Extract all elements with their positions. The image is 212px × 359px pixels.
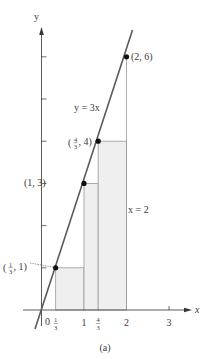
figure-caption: (a) xyxy=(99,342,110,354)
points: (13, 1)(1, 3)(43, 4)(2, 6) xyxy=(3,51,153,275)
data-point xyxy=(81,181,86,186)
x-tick-label-numerator: 1 xyxy=(54,316,57,323)
x-tick-label: 3 xyxy=(167,317,172,328)
point-label-tail: , 4) xyxy=(79,136,92,148)
x-axis-label: x xyxy=(194,304,200,315)
x-tick-label-numerator: 4 xyxy=(97,316,101,323)
point-label: (43, 4) xyxy=(68,136,92,150)
point-label-tail: , 1) xyxy=(14,261,27,273)
point-label-denominator: 3 xyxy=(9,268,12,275)
shaded-rectangle xyxy=(84,183,98,310)
shaded-rectangle xyxy=(98,141,126,310)
line-equation-label: y = 3x xyxy=(74,102,100,113)
origin-label: 0 xyxy=(45,316,50,327)
x-tick-label: 2 xyxy=(124,317,129,328)
riemann-sum-plot: y x 0 1314323 y = 3x x = 2 (13, 1)(1, 3)… xyxy=(0,0,212,359)
x-tick-label-denominator: 3 xyxy=(54,324,57,331)
shaded-rectangles xyxy=(56,57,127,310)
x-tick-label-denominator: 3 xyxy=(97,324,100,331)
data-point xyxy=(96,139,101,144)
shaded-rectangle xyxy=(56,268,84,310)
point-label: (2, 6) xyxy=(131,51,153,63)
vertical-line-label: x = 2 xyxy=(128,204,149,215)
data-point xyxy=(53,265,58,270)
point-label: (13, 1) xyxy=(3,261,27,275)
x-axis-arrow-icon xyxy=(184,308,192,312)
point-label-denominator: 3 xyxy=(74,143,77,150)
paren: ( xyxy=(3,262,7,274)
point-label: (1, 3) xyxy=(24,177,46,189)
diagram-figure: y x 0 1314323 y = 3x x = 2 (13, 1)(1, 3)… xyxy=(0,0,212,359)
y-axis-arrow-icon xyxy=(39,27,44,35)
data-point xyxy=(124,54,129,59)
point-label-numerator: 4 xyxy=(74,136,78,143)
point-label-numerator: 1 xyxy=(9,261,12,268)
paren: ( xyxy=(68,137,72,149)
x-tick-label: 1 xyxy=(82,317,87,328)
y-axis-label: y xyxy=(34,11,39,22)
